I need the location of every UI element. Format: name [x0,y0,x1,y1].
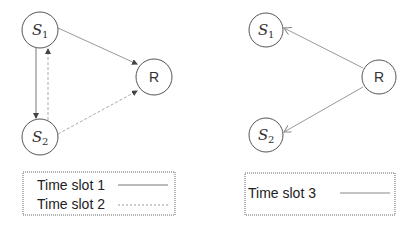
node-s1-subscript: 1 [42,29,48,40]
node-s1: S 1 [22,12,58,48]
node-s2-subscript: 2 [42,136,48,147]
legend-label-slot2: Time slot 2 [37,196,105,212]
node-s2-label: S [258,126,268,144]
node-s1-label: S [258,21,268,39]
edge-s1-to-r-slot1 [58,28,137,64]
node-s2: S 2 [22,119,58,155]
legend-label-slot1: Time slot 1 [37,177,105,193]
node-r: R [362,60,396,94]
node-r-label: R [149,69,159,85]
node-r: R [136,59,172,95]
relay-diagram: S 1 S 2 R Time slot 1 Time slot 2 S 1 [0,0,416,225]
legend-left: Time slot 1 Time slot 2 [23,172,175,215]
legend-right: Time slot 3 [245,173,395,215]
node-s1-subscript: 1 [268,29,274,40]
left-panel: S 1 S 2 R Time slot 1 Time slot 2 [22,12,175,215]
right-panel: S 1 S 2 R Time slot 3 [245,13,396,215]
edge-r-to-s1-slot3 [284,28,363,68]
node-s1-label: S [32,21,42,39]
node-s2-label: S [32,128,42,146]
edge-s2-to-r-slot2 [58,91,137,134]
node-s1: S 1 [249,13,283,47]
node-r-label: R [374,69,384,85]
node-s2: S 2 [249,118,283,152]
edge-r-to-s2-slot3 [284,87,363,132]
node-s2-subscript: 2 [268,134,274,145]
legend-label-slot3: Time slot 3 [248,185,316,201]
